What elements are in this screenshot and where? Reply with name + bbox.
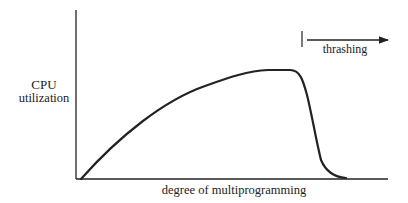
y-axis-label-line2: utilization: [19, 91, 70, 105]
y-axis-label-line1: CPU: [31, 77, 57, 92]
x-axis-label: degree of multiprogramming: [162, 183, 307, 197]
cpu-utilization-curve: [81, 70, 346, 179]
thrashing-diagram: thrashing CPU utilization degree of mult…: [0, 0, 408, 203]
thrashing-label: thrashing: [323, 42, 368, 56]
